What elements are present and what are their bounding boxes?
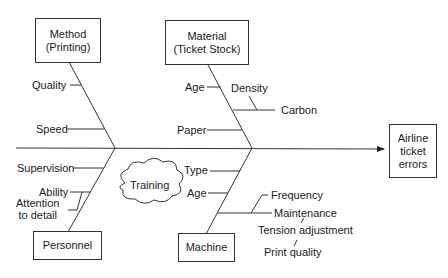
attention-branch bbox=[68, 192, 82, 210]
cause-frequency: Frequency bbox=[271, 189, 323, 201]
cause-supervision: Supervision bbox=[17, 162, 74, 174]
cause-print-quality: Print quality bbox=[264, 246, 321, 258]
personnel-box: Personnel bbox=[33, 231, 102, 260]
cause-quality: Quality bbox=[32, 79, 66, 91]
cause-age-machine: Age bbox=[187, 187, 207, 199]
cause-carbon: Carbon bbox=[281, 104, 317, 116]
personnel-bone bbox=[68, 148, 115, 232]
machine-label: Machine bbox=[186, 241, 228, 254]
personnel-label: Personnel bbox=[43, 239, 93, 252]
method-bone bbox=[69, 62, 115, 148]
cause-tension-adjustment: Tension adjustment bbox=[258, 224, 353, 236]
cause-type: Type bbox=[184, 164, 208, 176]
effect-label: Airline ticket errors bbox=[398, 132, 429, 171]
material-label: Material (Ticket Stock) bbox=[174, 30, 241, 56]
density-connector bbox=[249, 96, 257, 110]
cause-speed: Speed bbox=[36, 123, 68, 135]
machine-box: Machine bbox=[178, 233, 235, 262]
effect-box: Airline ticket errors bbox=[389, 124, 437, 178]
training-label: Training bbox=[130, 179, 169, 191]
cause-density: Density bbox=[231, 82, 268, 94]
cause-age: Age bbox=[185, 81, 205, 93]
machine-bone bbox=[206, 148, 252, 234]
method-box: Method (Printing) bbox=[35, 18, 101, 63]
cause-paper: Paper bbox=[177, 124, 206, 136]
spine bbox=[16, 148, 384, 149]
material-bone bbox=[208, 65, 252, 148]
material-box: Material (Ticket Stock) bbox=[165, 20, 249, 65]
cause-attention: Attention to detail bbox=[16, 197, 59, 221]
cause-maintenance: Maintenance bbox=[274, 207, 337, 219]
method-label: Method (Printing) bbox=[46, 28, 91, 54]
frequency-connector bbox=[251, 195, 268, 213]
